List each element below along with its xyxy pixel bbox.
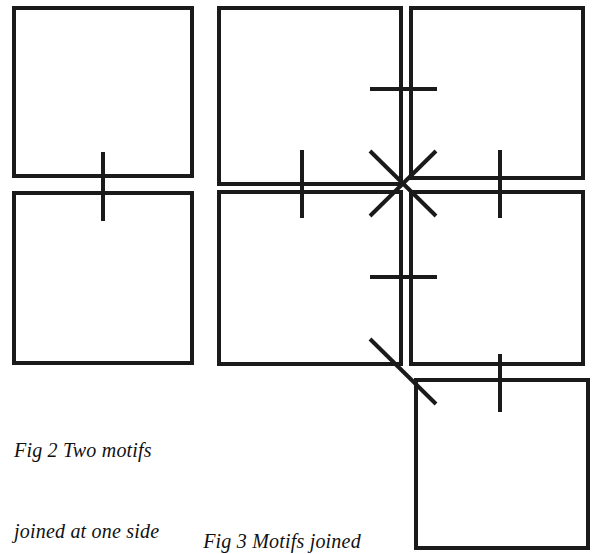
caption-fig2-line-2: joined at one side [14, 518, 159, 545]
caption-fig2-line-1: Fig 2 Two motifs [14, 437, 159, 464]
caption-fig3: Fig 3 Motifs joined at sides and corners [142, 474, 422, 554]
caption-fig2: Fig 2 Two motifs joined at one side [14, 383, 159, 554]
caption-fig3-line-1: Fig 3 Motifs joined [142, 528, 422, 554]
